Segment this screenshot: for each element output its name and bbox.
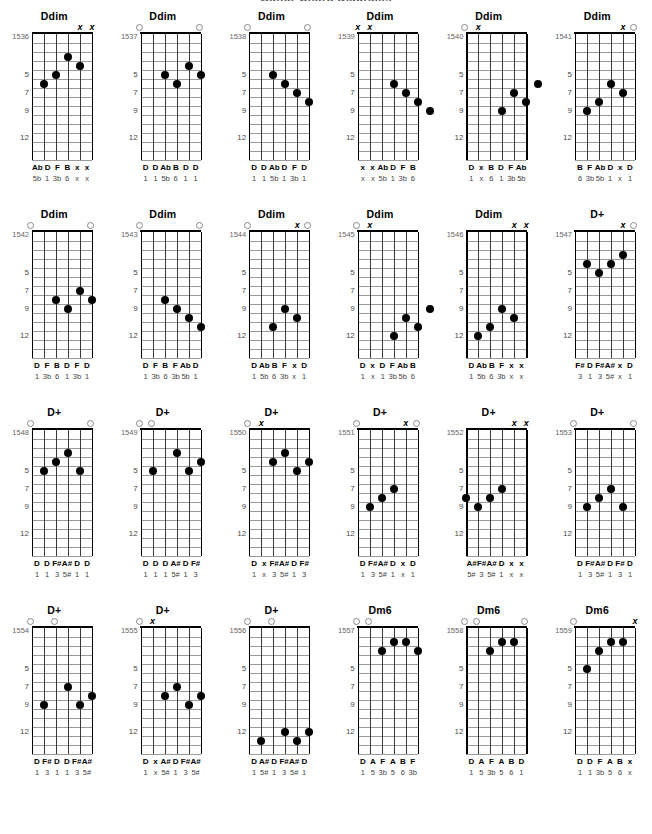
chord-diagram[interactable]: Ddimxx153957912xxAbDFBxx5b13b6	[326, 10, 435, 208]
finger-dot[interactable]	[64, 305, 72, 313]
finger-dot[interactable]	[293, 737, 301, 745]
finger-dot[interactable]	[52, 458, 60, 466]
fretboard[interactable]: 154857912	[32, 430, 92, 556]
finger-dot[interactable]	[64, 449, 72, 457]
finger-dot[interactable]	[486, 494, 494, 502]
finger-dot[interactable]	[390, 80, 398, 88]
fretboard[interactable]: 155657912	[249, 628, 309, 754]
finger-dot[interactable]	[269, 323, 277, 331]
finger-dot[interactable]	[595, 98, 603, 106]
finger-dot[interactable]	[474, 503, 482, 511]
chord-diagram[interactable]: Dm6x155957912DDFABx113b56x	[543, 604, 652, 802]
finger-dot[interactable]	[293, 89, 301, 97]
chord-diagram[interactable]: D+x155557912DxA#DF#A#1x5#135#	[109, 604, 218, 802]
finger-dot[interactable]	[510, 638, 518, 646]
finger-dot[interactable]	[269, 458, 277, 466]
fretboard[interactable]: 154357912	[141, 232, 201, 358]
chord-diagram[interactable]: Ddimx154057912DxBDFAb1x613b5b	[434, 10, 543, 208]
fretboard[interactable]: 154057912	[466, 34, 526, 160]
finger-dot[interactable]	[486, 647, 494, 655]
finger-dot[interactable]	[293, 314, 301, 322]
finger-dot[interactable]	[607, 485, 615, 493]
chord-diagram[interactable]: Ddimx154457912DAbBFxD15b63bx1	[217, 208, 326, 406]
finger-dot[interactable]	[305, 458, 313, 466]
finger-dot[interactable]	[510, 314, 518, 322]
finger-dot[interactable]	[486, 323, 494, 331]
finger-dot[interactable]	[173, 683, 181, 691]
finger-dot[interactable]	[619, 89, 627, 97]
finger-dot[interactable]	[498, 107, 506, 115]
fretboard[interactable]: 154757912	[575, 232, 635, 358]
finger-dot[interactable]	[88, 692, 96, 700]
finger-dot[interactable]	[607, 638, 615, 646]
finger-dot[interactable]	[414, 98, 422, 106]
finger-dot[interactable]	[305, 98, 313, 106]
finger-dot[interactable]	[474, 332, 482, 340]
finger-dot[interactable]	[305, 728, 313, 736]
finger-dot[interactable]	[281, 80, 289, 88]
finger-dot[interactable]	[197, 323, 205, 331]
chord-diagram[interactable]: Dm6155757912DAFABF153b563b	[326, 604, 435, 802]
finger-dot[interactable]	[64, 53, 72, 61]
fretboard[interactable]: 155057912	[249, 430, 309, 556]
finger-dot[interactable]	[390, 485, 398, 493]
fretboard[interactable]: 153957912	[358, 34, 418, 160]
finger-dot[interactable]	[534, 80, 542, 88]
finger-dot[interactable]	[498, 305, 506, 313]
finger-dot[interactable]	[426, 107, 434, 115]
finger-dot[interactable]	[426, 305, 434, 313]
finger-dot[interactable]	[149, 467, 157, 475]
fretboard[interactable]: 154557912	[358, 232, 418, 358]
finger-dot[interactable]	[595, 647, 603, 655]
finger-dot[interactable]	[173, 80, 181, 88]
finger-dot[interactable]	[185, 314, 193, 322]
finger-dot[interactable]	[390, 332, 398, 340]
fretboard[interactable]: 155557912	[141, 628, 201, 754]
chord-diagram[interactable]: D+x155157912DF#A#DxD135#1x1	[326, 406, 435, 604]
finger-dot[interactable]	[522, 98, 530, 106]
chord-diagram[interactable]: Ddim153757912DDAbBDD115b611	[109, 10, 218, 208]
chord-diagram[interactable]: D+155457912DF#DDF#A#131135#	[0, 604, 109, 802]
finger-dot[interactable]	[52, 296, 60, 304]
finger-dot[interactable]	[185, 467, 193, 475]
finger-dot[interactable]	[378, 494, 386, 502]
chord-diagram[interactable]: D+x154757912F#DF#A#xD3135#x1	[543, 208, 652, 406]
finger-dot[interactable]	[366, 503, 374, 511]
fretboard[interactable]: 155157912	[358, 430, 418, 556]
finger-dot[interactable]	[197, 458, 205, 466]
fretboard[interactable]: 155757912	[358, 628, 418, 754]
chord-diagram[interactable]: Dm6155857912DAFABD153b561	[434, 604, 543, 802]
finger-dot[interactable]	[40, 80, 48, 88]
finger-dot[interactable]	[402, 89, 410, 97]
finger-dot[interactable]	[402, 638, 410, 646]
fretboard[interactable]: 154257912	[32, 232, 92, 358]
finger-dot[interactable]	[293, 467, 301, 475]
fretboard[interactable]: 154957912	[141, 430, 201, 556]
finger-dot[interactable]	[583, 260, 591, 268]
fretboard[interactable]: 154157912	[575, 34, 635, 160]
finger-dot[interactable]	[76, 467, 84, 475]
finger-dot[interactable]	[595, 494, 603, 502]
finger-dot[interactable]	[390, 638, 398, 646]
chord-diagram[interactable]: Ddimxx153657912AbDFBxx5b13b6xx	[0, 10, 109, 208]
finger-dot[interactable]	[197, 692, 205, 700]
chord-diagram[interactable]: D+155357912DF#A#DF#D135#131	[543, 406, 652, 604]
finger-dot[interactable]	[402, 314, 410, 322]
finger-dot[interactable]	[64, 683, 72, 691]
finger-dot[interactable]	[40, 467, 48, 475]
chord-diagram[interactable]: Ddim153857912DDAbDFD115b13b1	[217, 10, 326, 208]
finger-dot[interactable]	[414, 323, 422, 331]
finger-dot[interactable]	[269, 71, 277, 79]
finger-dot[interactable]	[173, 305, 181, 313]
finger-dot[interactable]	[185, 701, 193, 709]
finger-dot[interactable]	[161, 296, 169, 304]
finger-dot[interactable]	[185, 62, 193, 70]
finger-dot[interactable]	[197, 71, 205, 79]
finger-dot[interactable]	[583, 107, 591, 115]
chord-diagram[interactable]: D+154857912DDF#A#DD1135#11	[0, 406, 109, 604]
finger-dot[interactable]	[619, 251, 627, 259]
finger-dot[interactable]	[161, 692, 169, 700]
finger-dot[interactable]	[462, 494, 470, 502]
finger-dot[interactable]	[619, 503, 627, 511]
finger-dot[interactable]	[595, 269, 603, 277]
